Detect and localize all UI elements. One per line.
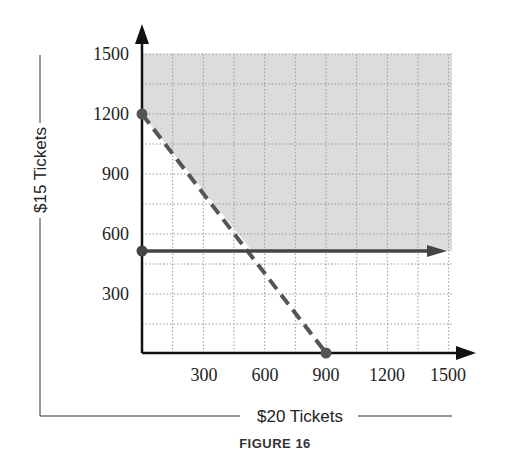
y-tick-labels: 1500 1200 900 600 300 bbox=[93, 44, 129, 304]
x-tick-labels: 300 600 900 1200 1500 bbox=[191, 365, 467, 385]
x-tick-300: 300 bbox=[191, 365, 218, 385]
y-axis-title: $15 Tickets bbox=[31, 127, 50, 213]
y-axis-arrow-icon bbox=[135, 24, 149, 44]
y-tick-1500: 1500 bbox=[93, 44, 129, 64]
x-axis-arrow-icon bbox=[456, 346, 476, 360]
x-axis-title-group: $20 Tickets bbox=[257, 407, 452, 426]
y-tick-300: 300 bbox=[102, 284, 129, 304]
x-axis-title: $20 Tickets bbox=[257, 407, 343, 426]
y-tick-600: 600 bbox=[102, 224, 129, 244]
chart-figure: 1500 1200 900 600 300 300 600 900 1200 1… bbox=[0, 0, 507, 476]
x-tick-600: 600 bbox=[252, 365, 279, 385]
x-tick-1200: 1200 bbox=[369, 365, 405, 385]
x-tick-1500: 1500 bbox=[430, 365, 466, 385]
figure-caption: FIGURE 16 bbox=[239, 436, 311, 451]
point-0-500 bbox=[137, 246, 148, 257]
point-900-0 bbox=[321, 348, 332, 359]
point-0-1200 bbox=[137, 109, 148, 120]
y-tick-900: 900 bbox=[102, 164, 129, 184]
x-tick-900: 900 bbox=[313, 365, 340, 385]
y-tick-1200: 1200 bbox=[93, 104, 129, 124]
